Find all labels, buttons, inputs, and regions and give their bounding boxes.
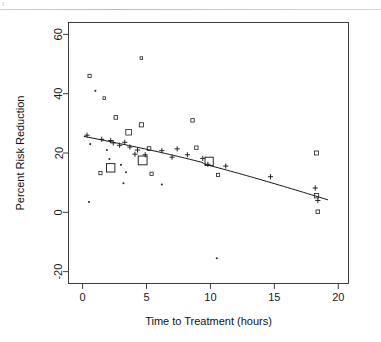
data-point-dot bbox=[88, 201, 90, 203]
data-point-plus bbox=[223, 163, 228, 168]
data-point-square bbox=[99, 172, 102, 175]
data-point-dot bbox=[122, 182, 124, 184]
data-point-plus bbox=[175, 146, 180, 151]
y-axis-tick-label: 20 bbox=[53, 147, 65, 159]
data-point-square bbox=[191, 119, 194, 122]
data-point-dot bbox=[120, 164, 122, 166]
data-point-dot bbox=[125, 171, 127, 173]
figure-panel: I 05101520-200204060 Time to Treatment (… bbox=[0, 0, 381, 342]
data-point-square bbox=[316, 210, 320, 214]
plot-frame bbox=[69, 23, 349, 284]
data-points-layer bbox=[84, 57, 320, 260]
data-point-dot bbox=[94, 90, 96, 92]
data-point-plus bbox=[185, 152, 190, 157]
data-point-square bbox=[114, 116, 118, 120]
data-point-dot bbox=[216, 257, 218, 259]
x-axis-tick-label: 5 bbox=[143, 291, 149, 303]
x-axis-tick-label: 20 bbox=[332, 291, 344, 303]
data-point-dot bbox=[161, 183, 163, 185]
data-point-square bbox=[150, 172, 153, 175]
axes-layer: 05101520-200204060 bbox=[53, 23, 349, 303]
regression-fit-line bbox=[84, 136, 328, 199]
x-axis-tick-label: 10 bbox=[204, 291, 216, 303]
data-point-dot bbox=[106, 149, 108, 151]
y-axis-tick-label: 60 bbox=[53, 28, 65, 40]
x-axis-title: Time to Treatment (hours) bbox=[145, 315, 272, 327]
data-point-square bbox=[140, 57, 143, 60]
x-axis-tick-label: 15 bbox=[268, 291, 280, 303]
data-point-square bbox=[195, 146, 198, 149]
data-point-dot bbox=[108, 158, 110, 160]
data-point-plus bbox=[132, 152, 137, 157]
data-point-square bbox=[138, 156, 147, 165]
x-axis-tick-label: 0 bbox=[80, 291, 86, 303]
data-point-plus bbox=[268, 174, 273, 179]
y-axis-tick-label: 40 bbox=[53, 88, 65, 100]
data-point-square bbox=[103, 97, 106, 100]
data-point-plus bbox=[313, 185, 318, 190]
data-point-plus bbox=[315, 198, 320, 203]
y-axis-title: Percent Risk Reduction bbox=[14, 96, 26, 211]
scatter-plot: 05101520-200204060 Time to Treatment (ho… bbox=[0, 0, 381, 342]
data-point-square bbox=[126, 129, 132, 135]
data-point-dot bbox=[89, 143, 91, 145]
y-axis-tick-label: -20 bbox=[53, 264, 65, 280]
data-point-square bbox=[106, 164, 114, 172]
data-point-square bbox=[315, 151, 319, 155]
data-point-square bbox=[216, 173, 219, 176]
data-point-square bbox=[139, 123, 143, 127]
fit-line-layer bbox=[84, 136, 328, 199]
y-axis-tick-label: 0 bbox=[53, 209, 65, 215]
data-point-square bbox=[88, 74, 91, 77]
